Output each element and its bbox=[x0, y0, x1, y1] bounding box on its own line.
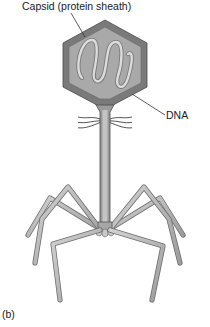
tail-sheath bbox=[95, 103, 115, 225]
whisker-4 bbox=[110, 121, 132, 123]
tail-fibers-front bbox=[53, 230, 163, 300]
whisker-0 bbox=[78, 117, 100, 119]
base-pin-1 bbox=[102, 229, 108, 237]
tail-fiber-front-left bbox=[53, 230, 100, 300]
whisker-2 bbox=[78, 123, 100, 128]
capsid-leader-line bbox=[71, 13, 85, 37]
tail-core bbox=[103, 110, 108, 225]
panel-label: (b) bbox=[2, 308, 15, 320]
capsid bbox=[63, 20, 147, 105]
whisker-5 bbox=[110, 123, 132, 128]
bacteriophage-diagram: Capsid (protein sheath) DNA (b) bbox=[0, 0, 210, 327]
dna-leader-line bbox=[132, 94, 165, 115]
whisker-1 bbox=[78, 121, 100, 123]
capsid-label: Capsid (protein sheath) bbox=[22, 0, 131, 12]
whisker-3 bbox=[110, 117, 132, 119]
dna-label: DNA bbox=[166, 109, 188, 121]
